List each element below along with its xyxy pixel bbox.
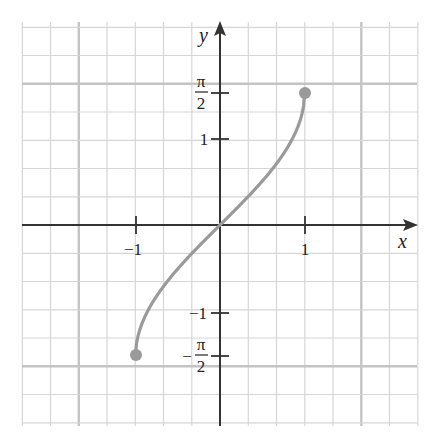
x-tick-label-1: 1 [301, 240, 310, 259]
svg-text:π: π [197, 72, 206, 91]
y-tick-label-neg1: −1 [189, 304, 207, 323]
svg-text:π: π [197, 335, 206, 354]
y-tick-label-1: 1 [200, 130, 209, 149]
arcsin-graph: x y −1 1 π 2 1 −1 − π 2 [0, 0, 435, 443]
x-tick-label-neg1: −1 [124, 240, 142, 259]
endpoint-dot-top [299, 87, 311, 99]
svg-text:2: 2 [197, 357, 206, 376]
svg-text:−: − [182, 347, 192, 366]
x-axis-label: x [397, 230, 407, 252]
y-axis-label: y [197, 24, 208, 47]
y-tick-label-neg-pi-half: − π 2 [182, 335, 208, 376]
svg-text:2: 2 [197, 94, 206, 113]
y-tick-label-pi-half: π 2 [195, 72, 208, 113]
endpoint-dot-bottom [130, 349, 142, 361]
